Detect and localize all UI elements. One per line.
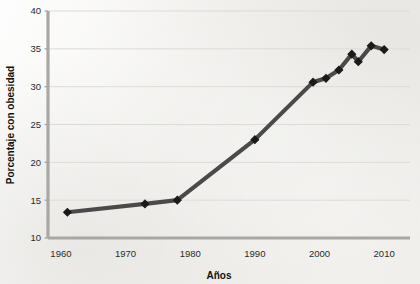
data-point-marker xyxy=(63,208,72,217)
y-tick-label: 40 xyxy=(30,5,41,16)
x-axis-title: Años xyxy=(207,270,232,281)
data-point-marker xyxy=(140,199,149,208)
y-tick-label: 10 xyxy=(30,232,41,243)
chart-svg: 10152025303540 196019701980199020002010 … xyxy=(0,0,420,284)
data-point-marker xyxy=(380,45,389,54)
y-tick-label: 20 xyxy=(30,157,41,168)
x-tick-label: 1980 xyxy=(180,248,201,259)
y-tick-label: 15 xyxy=(30,195,41,206)
obesity-line-chart: 10152025303540 196019701980199020002010 … xyxy=(0,0,420,284)
gridlines xyxy=(48,11,410,200)
x-tick-label: 2010 xyxy=(374,248,395,259)
x-tick-label: 1970 xyxy=(115,248,136,259)
x-tick-label: 1960 xyxy=(50,248,71,259)
data-markers xyxy=(63,41,389,217)
x-tick-labels: 196019701980199020002010 xyxy=(50,248,394,259)
y-tick-labels: 10152025303540 xyxy=(30,5,48,243)
x-tick-label: 1990 xyxy=(244,248,265,259)
y-axis-title: Porcentaje con obesidad xyxy=(5,66,16,184)
x-tick-label: 2000 xyxy=(309,248,330,259)
y-tick-label: 30 xyxy=(30,81,41,92)
y-tick-label: 25 xyxy=(30,119,41,130)
y-tick-label: 35 xyxy=(30,43,41,54)
